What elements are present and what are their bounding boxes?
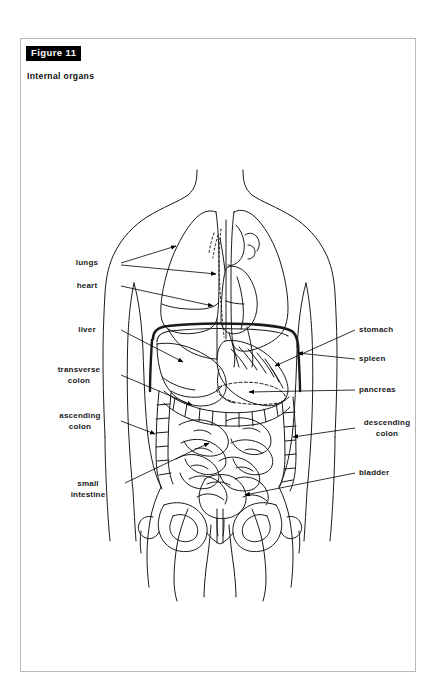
- label-small-intestine: small intestine: [53, 479, 123, 500]
- label-liver: liver: [57, 325, 117, 336]
- pelvis-shape: [138, 503, 301, 553]
- label-spleen: spleen: [359, 354, 386, 365]
- label-ascending-colon: ascending colon: [43, 411, 117, 432]
- descending-colon-shape: [280, 397, 296, 491]
- diaphragm-inner: [157, 329, 288, 342]
- label-heart: heart: [57, 281, 117, 292]
- ascending-colon-shape: [156, 391, 173, 489]
- label-transverse-colon: transverse colon: [41, 365, 117, 386]
- small-intestine-shape: [176, 418, 273, 505]
- lungs-shape: [161, 210, 288, 367]
- label-descending-colon: descending colon: [359, 418, 415, 439]
- anatomy-diagram: [21, 39, 416, 672]
- label-pancreas: pancreas: [359, 385, 396, 396]
- pancreas-shape: [217, 382, 286, 404]
- label-lungs: lungs: [57, 258, 117, 269]
- label-bladder: bladder: [359, 468, 389, 479]
- label-stomach: stomach: [359, 325, 393, 336]
- figure-page: Figure 11 Internal organs: [20, 38, 416, 672]
